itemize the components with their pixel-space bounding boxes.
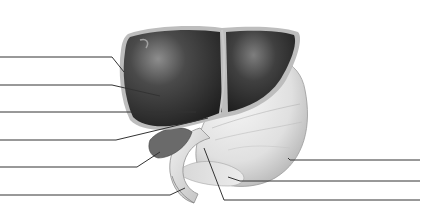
liver-stomach-illustration <box>0 0 434 219</box>
leader-line-l1 <box>0 57 124 72</box>
leader-line-l6 <box>0 188 185 195</box>
leader-line-l5 <box>0 152 160 167</box>
anatomy-diagram <box>0 0 434 219</box>
leader-line-r1 <box>288 158 420 160</box>
